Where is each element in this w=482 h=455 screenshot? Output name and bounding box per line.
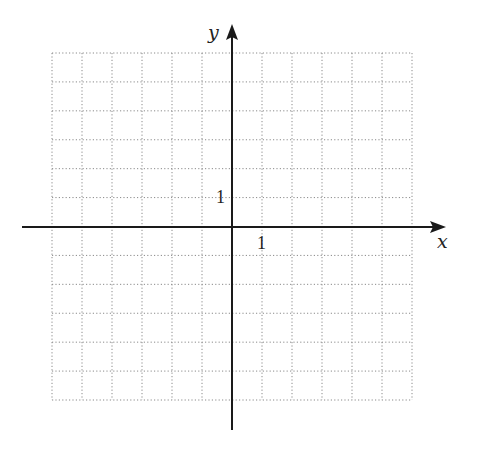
coordinate-plane: x y 1 1 [0, 0, 482, 455]
y-axis-label: y [207, 21, 219, 43]
x-tick-label-1: 1 [257, 233, 266, 253]
x-axis-label: x [437, 230, 448, 252]
y-tick-label-1: 1 [216, 187, 225, 207]
